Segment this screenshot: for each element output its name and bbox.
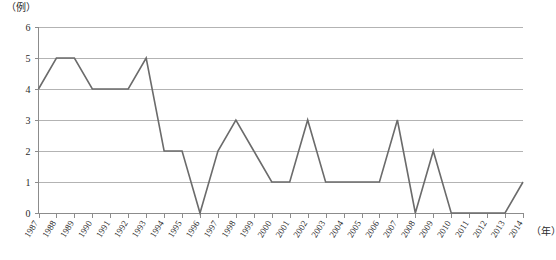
y-axis-tick-label: 4 (26, 84, 31, 95)
x-axis-tick-label: 2012 (471, 219, 489, 240)
x-axis-tick-label: 1987 (22, 218, 40, 239)
x-axis-tick-label: 2009 (417, 218, 435, 239)
x-axis-tick-label: 1993 (130, 218, 148, 239)
x-axis-tick-label: 2014 (507, 218, 525, 239)
x-axis-tick-label: 1995 (166, 218, 184, 239)
x-axis-tick-labels: 1987198819891990199119921993199419951996… (22, 218, 525, 239)
y-axis-tick-label: 3 (26, 115, 31, 126)
data-series-line (39, 58, 524, 213)
x-axis-tick-label: 1996 (184, 218, 202, 239)
x-axis-tick-label: 1990 (76, 218, 94, 239)
line-chart: （例） （年） 0123456 198719881989199019911992… (0, 0, 556, 260)
x-axis-tick-label: 2003 (309, 218, 327, 239)
x-axis-tick-label: 1991 (94, 219, 112, 240)
x-axis-tick-label: 2011 (453, 219, 471, 239)
x-axis-tick-label: 2010 (435, 218, 453, 239)
y-axis-tick-label: 2 (26, 146, 31, 157)
x-axis-tick-label: 2001 (273, 219, 291, 240)
x-axis-tick-label: 2007 (381, 218, 399, 239)
x-axis-tick-label: 2004 (327, 218, 345, 239)
y-axis-tick-label: 1 (26, 177, 31, 188)
gridlines (35, 28, 524, 214)
x-axis-tick-label: 1988 (40, 218, 58, 239)
x-axis-tick-label: 2000 (255, 218, 273, 239)
y-axis-tick-label: 6 (26, 22, 31, 33)
x-axis-tick-label: 2008 (399, 218, 417, 239)
x-axis-tick-label: 2006 (363, 218, 381, 239)
y-axis-tick-label: 5 (26, 53, 31, 64)
x-axis-tick-label: 1998 (220, 218, 238, 239)
x-axis-tick-label: 1999 (238, 218, 256, 239)
x-axis-tick-label: 1997 (202, 218, 220, 239)
y-axis-tick-labels: 0123456 (26, 22, 31, 219)
x-axis-tick-label: 1994 (148, 218, 166, 239)
x-axis-tick-label: 1989 (58, 218, 76, 239)
x-axis-tick-label: 2013 (489, 218, 507, 239)
x-axis-tick-label: 2005 (345, 218, 363, 239)
y-axis-tick-label: 0 (26, 208, 31, 219)
plot-area: 0123456 19871988198919901991199219931994… (0, 0, 556, 260)
x-axis-tick-label: 2002 (291, 219, 309, 240)
x-axis-tick-label: 1992 (112, 219, 130, 240)
